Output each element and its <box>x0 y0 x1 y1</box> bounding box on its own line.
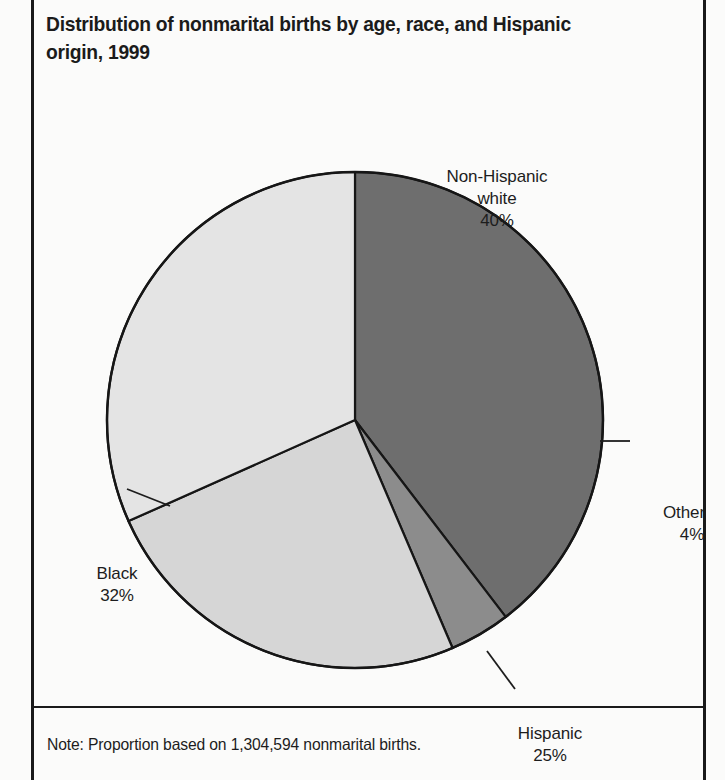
leader-line-hispanic <box>487 651 515 689</box>
pie-label-other: Other 4% <box>663 502 721 546</box>
note-divider-rule <box>34 706 703 708</box>
pie-chart-svg <box>34 78 703 703</box>
pie-label-non-hispanic-white-value: 40% <box>417 210 577 232</box>
pie-label-hispanic: Hispanic 25% <box>502 723 598 767</box>
pie-label-black-line1: Black <box>96 564 137 583</box>
pie-label-other-line1: Other <box>663 503 705 522</box>
frame-rule-right <box>703 0 706 780</box>
pie-label-non-hispanic-white-line2: white <box>477 189 516 208</box>
chart-title: Distribution of nonmarital births by age… <box>46 10 619 67</box>
pie-label-black-value: 32% <box>81 585 153 607</box>
pie-label-black: Black 32% <box>81 563 153 607</box>
pie-label-hispanic-value: 25% <box>502 745 598 767</box>
pie-label-hispanic-line1: Hispanic <box>518 724 582 743</box>
pie-label-other-value: 4% <box>663 524 721 546</box>
pie-label-non-hispanic-white-line1: Non-Hispanic <box>447 167 548 186</box>
chart-note: Note: Proportion based on 1,304,594 nonm… <box>47 735 421 754</box>
pie-chart-plot-area: Non-Hispanic white 40% Other 4% Hispanic… <box>34 78 703 703</box>
pie-label-non-hispanic-white: Non-Hispanic white 40% <box>417 166 577 231</box>
figure-panel: Distribution of nonmarital births by age… <box>0 0 725 780</box>
